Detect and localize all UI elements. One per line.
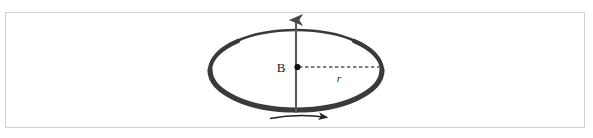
ring-right-blend xyxy=(354,41,382,70)
ring-left-blend xyxy=(210,41,238,70)
center-point-label: B xyxy=(277,60,286,75)
radius-label: r xyxy=(337,72,342,84)
center-point-marker xyxy=(294,64,300,70)
rotation-direction-arrow xyxy=(270,116,327,119)
rotating-ring-diagram: B r xyxy=(0,0,593,138)
figure-root: B r xyxy=(0,0,593,138)
